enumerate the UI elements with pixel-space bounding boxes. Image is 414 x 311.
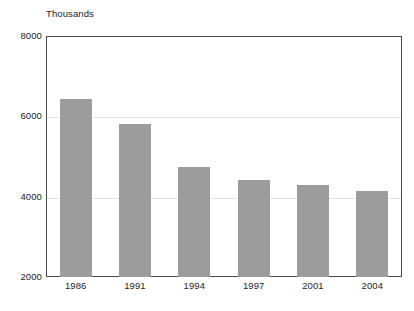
x-axis-tick-label: 1997: [224, 280, 283, 292]
bar-slot: [178, 36, 210, 277]
y-axis-tick-label: 8000: [2, 31, 42, 41]
chart-title: Thousands: [46, 8, 94, 20]
bar-slot: [356, 36, 388, 277]
bar-chart: Thousands 2000400060008000 1986199119941…: [0, 0, 414, 311]
y-axis-tick-label: 6000: [2, 111, 42, 121]
bar-slot: [238, 36, 270, 277]
bars-layer: [46, 36, 402, 277]
bar-slot: [297, 36, 329, 277]
x-axis-tick-label: 1986: [46, 280, 105, 292]
y-axis: 2000400060008000: [0, 36, 42, 277]
bar: [119, 124, 151, 277]
x-axis-tick-label: 2004: [343, 280, 402, 292]
bar: [60, 99, 92, 277]
x-axis-tick-label: 1991: [105, 280, 164, 292]
bar-slot: [60, 36, 92, 277]
bar: [178, 167, 210, 277]
bar: [356, 191, 388, 277]
y-axis-tick-label: 2000: [2, 272, 42, 282]
y-axis-tick-label: 4000: [2, 192, 42, 202]
x-axis-tick-label: 2001: [283, 280, 342, 292]
bar: [238, 180, 270, 277]
bar-slot: [119, 36, 151, 277]
x-axis-tick-label: 1994: [165, 280, 224, 292]
bar: [297, 185, 329, 277]
x-axis: 198619911994199720012004: [46, 280, 402, 300]
